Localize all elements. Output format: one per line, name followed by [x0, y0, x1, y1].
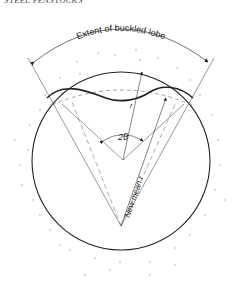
new-mean-radius-label: New mean r: [123, 175, 146, 219]
pipe-circle: [32, 72, 210, 250]
extent-label: Extent of buckled lobe: [75, 23, 167, 41]
radius-line: [123, 72, 142, 160]
extent-arc: [34, 29, 208, 62]
buckled-lobe-diagram: Extent of buckled lobe 2θ r New mean r: [0, 0, 240, 286]
angle-label: 2θ: [117, 132, 128, 142]
dashed-line-left: [72, 102, 121, 226]
radius-label: r: [130, 102, 133, 109]
surrounding-material-dots: [14, 49, 226, 276]
buckled-lobe-curve: [47, 87, 193, 100]
theta-line-left: [62, 104, 123, 160]
new-mean-arc: [52, 90, 192, 105]
theta-line-right: [123, 104, 184, 160]
